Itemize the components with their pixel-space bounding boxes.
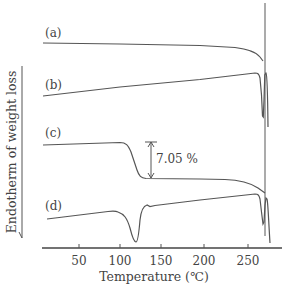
- x-tick-250: 250: [237, 254, 260, 268]
- curve-label-a: (a): [45, 26, 62, 40]
- x-tick-50: 50: [71, 254, 86, 268]
- curve-d: [47, 194, 270, 243]
- x-axis-label: Temperature (℃): [99, 269, 209, 284]
- curve-c: [43, 143, 265, 194]
- x-tick-100: 100: [109, 254, 132, 268]
- x-axis: 50 100 150 200 250 Temperature (℃): [42, 244, 282, 284]
- x-tick-200: 200: [193, 254, 216, 268]
- dsc-tg-chart: Endotherm of weight loss (a) (b) (c) (d)…: [0, 0, 291, 289]
- curve-b: [43, 73, 268, 127]
- weight-loss-label: 7.05 %: [156, 152, 198, 166]
- curve-label-c: (c): [45, 126, 61, 140]
- curve-label-d: (d): [45, 199, 62, 213]
- y-axis-label-group: Endotherm of weight loss: [4, 66, 22, 238]
- y-axis-label: Endotherm of weight loss: [4, 71, 19, 234]
- x-tick-150: 150: [150, 254, 173, 268]
- weight-loss-annotation: 7.05 %: [145, 142, 198, 178]
- curve-label-b: (b): [45, 78, 62, 92]
- curve-a: [43, 43, 263, 61]
